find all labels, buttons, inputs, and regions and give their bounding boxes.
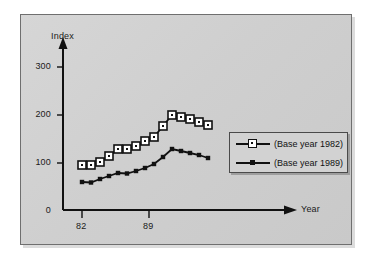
y-tick-label-200: 200 [21, 109, 51, 119]
x-tick-label-89: 89 [143, 221, 153, 231]
series-base-1982 [78, 111, 212, 169]
legend-entry-base-1989: (Base year 1989) [230, 153, 349, 173]
y-axis-title: Index [51, 31, 74, 41]
x-axis [63, 206, 297, 215]
y-tick-label-300: 300 [21, 61, 51, 71]
y-axis [59, 37, 68, 210]
x-axis-title: Year [301, 204, 320, 214]
legend-label-base-1989: (Base year 1989) [274, 158, 343, 168]
legend-label-base-1982: (Base year 1982) [274, 139, 343, 149]
legend-marker-open-square-icon [236, 137, 270, 151]
y-tick-label-0: 0 [21, 205, 51, 215]
legend-entry-base-1982: (Base year 1982) [230, 134, 349, 154]
legend-marker-filled-dot-icon [236, 156, 270, 170]
y-tick-label-100: 100 [21, 157, 51, 167]
chart-legend: (Base year 1982) (Base year 1989) [229, 132, 348, 173]
x-tick-label-82: 82 [76, 221, 86, 231]
chart-screenshot: Index Year 300 200 100 0 82 89 (Base yea… [0, 0, 368, 265]
x-axis-ticks [82, 210, 149, 218]
chart-panel: Index Year 300 200 100 0 82 89 (Base yea… [20, 14, 352, 245]
